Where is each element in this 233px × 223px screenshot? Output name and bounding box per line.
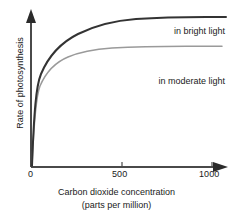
photosynthesis-co2-chart: 0 500 1000 Carbon dioxide concentration …: [0, 0, 233, 223]
series-curve-bright: [32, 17, 226, 166]
series-label-moderate-light: in moderate light: [158, 76, 225, 86]
series-label-bright-light: in bright light: [174, 26, 225, 36]
y-axis-title: Rate of photosynthesis: [15, 13, 25, 153]
x-axis-title: Carbon dioxide concentration (parts per …: [0, 186, 233, 212]
x-axis-title-line2: (parts per million): [0, 199, 233, 212]
x-tick-label-500: 500: [112, 169, 127, 179]
series-curve-moderate: [32, 46, 222, 166]
x-tick-label-0: 0: [28, 169, 33, 179]
y-axis-arrow-icon: [26, 9, 36, 23]
x-tick-label-1000: 1000: [199, 169, 219, 179]
x-axis-title-line1: Carbon dioxide concentration: [58, 187, 175, 197]
